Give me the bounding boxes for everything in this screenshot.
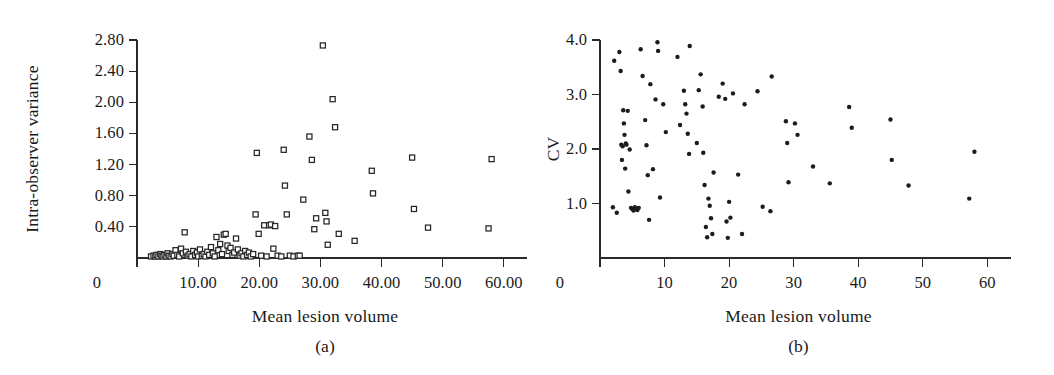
data-point (785, 141, 789, 145)
y-tick-label: 1.20 (0, 156, 124, 173)
data-point (330, 97, 335, 102)
data-point (643, 118, 647, 122)
data-point (784, 119, 788, 123)
data-point (906, 183, 910, 187)
data-point (282, 183, 287, 188)
data-point (218, 241, 223, 246)
x-tick-label: 50.00 (424, 275, 462, 292)
data-point (640, 74, 644, 78)
data-point (621, 108, 625, 112)
data-point (742, 102, 746, 106)
data-point (251, 252, 256, 257)
data-point (611, 205, 615, 209)
data-point (688, 44, 692, 48)
data-point (648, 82, 652, 86)
x-tick-label: 10 (656, 275, 673, 292)
data-point (325, 242, 330, 247)
data-point (617, 50, 621, 54)
data-point (687, 152, 691, 156)
data-point (705, 235, 709, 239)
data-point (695, 141, 699, 145)
data-point (727, 200, 731, 204)
data-point (708, 203, 712, 207)
data-point (644, 143, 648, 147)
data-point (624, 142, 628, 146)
data-point (651, 167, 655, 171)
y-tick-label: 1.60 (0, 125, 124, 142)
data-point (324, 219, 329, 224)
data-point (683, 102, 687, 106)
data-point (658, 195, 662, 199)
figure-container: 0.400.801.201.602.002.402.80010.0020.003… (0, 0, 1054, 375)
data-point (699, 72, 703, 76)
data-point (622, 133, 626, 137)
y-tick-label: 2.40 (0, 63, 124, 80)
y-tick-label: 4.0 (527, 32, 587, 49)
data-point (768, 209, 772, 213)
x-tick-label: 10.00 (179, 275, 217, 292)
data-point (682, 88, 686, 92)
data-point (320, 43, 325, 48)
data-point (888, 117, 892, 121)
data-point (655, 40, 659, 44)
data-point (214, 234, 219, 239)
data-point (314, 216, 319, 221)
data-point (724, 219, 728, 223)
data-point (711, 170, 715, 174)
x-tick-label: 30 (785, 275, 802, 292)
data-point (720, 81, 724, 85)
data-point (726, 236, 730, 240)
data-point (219, 252, 224, 257)
data-point (736, 172, 740, 176)
x-tick-label: 50 (914, 275, 931, 292)
data-point (728, 215, 732, 219)
panel-b-caption: (b) (788, 336, 808, 357)
data-point (264, 254, 269, 259)
data-point (182, 230, 187, 235)
panel-a-y-axis-title: Intra-observer variance (22, 65, 43, 232)
data-point (638, 47, 642, 51)
data-point (972, 150, 976, 154)
data-point (717, 94, 721, 98)
data-point (271, 246, 276, 251)
data-point (710, 232, 714, 236)
data-point (336, 231, 341, 236)
data-point (333, 125, 338, 130)
x-tick-label: 0 (556, 275, 564, 292)
data-point (811, 164, 815, 168)
y-tick-label: 0.40 (0, 219, 124, 236)
y-tick-label: 0.80 (0, 187, 124, 204)
data-point (723, 97, 727, 101)
data-point (620, 158, 624, 162)
data-point (850, 126, 854, 130)
data-point (770, 74, 774, 78)
panel-a-caption: (a) (315, 336, 334, 357)
data-point (297, 253, 302, 258)
data-point (678, 123, 682, 127)
panel-a: 0.400.801.201.602.002.402.80010.0020.003… (0, 0, 527, 375)
data-point (704, 225, 708, 229)
data-point (284, 212, 289, 217)
data-point (259, 253, 264, 258)
data-point (656, 49, 660, 53)
x-tick-label: 60 (979, 275, 996, 292)
data-point (312, 227, 317, 232)
data-point (701, 151, 705, 155)
data-point (890, 158, 894, 162)
data-point (309, 157, 314, 162)
data-point (664, 130, 668, 134)
x-tick-label: 40.00 (363, 275, 401, 292)
data-point (626, 109, 630, 113)
data-point (489, 157, 494, 162)
data-point (786, 180, 790, 184)
data-point (967, 196, 971, 200)
x-tick-label: 40 (850, 275, 867, 292)
data-point (253, 212, 258, 217)
data-point (411, 206, 416, 211)
data-point (760, 205, 764, 209)
panel-b-y-axis-title: CV (543, 137, 564, 162)
panel-a-x-axis-title: Mean lesion volume (252, 306, 399, 327)
data-point (273, 224, 278, 229)
x-tick-label: 0 (93, 275, 101, 292)
data-point (615, 211, 619, 215)
